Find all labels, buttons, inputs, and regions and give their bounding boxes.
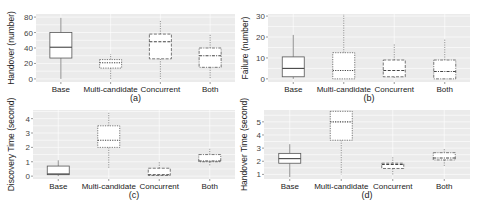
y-axis-label: Handover (number) (6, 11, 16, 85)
x-tick-label: Concurrent (141, 85, 181, 94)
y-tick-label: 0 (29, 75, 34, 84)
y-tick-label: 1 (257, 170, 262, 179)
y-tick-label: 5 (257, 118, 262, 127)
y-tick-label: 2 (26, 143, 31, 152)
panel-caption: (b) (364, 93, 375, 103)
panel-a: 020406080Handover (number)BaseMulti-cand… (6, 11, 235, 103)
boxplot-figure: 020406080Handover (number)BaseMulti-cand… (0, 0, 479, 211)
panel-b: 0102030Failure (number)BaseMulti-candida… (240, 12, 470, 103)
y-tick-label: 10 (256, 54, 265, 63)
x-tick-label: Concurrent (374, 85, 414, 94)
x-tick-label: Both (436, 182, 452, 191)
x-tick-label: Base (281, 182, 300, 191)
x-tick-label: Base (284, 85, 303, 94)
x-tick-label: Base (52, 85, 71, 94)
panel-d: 12345Handover Time (second)BaseMulti-can… (239, 98, 470, 200)
y-tick-label: 1 (26, 158, 31, 167)
y-tick-label: 20 (24, 59, 33, 68)
y-tick-label: 2 (257, 157, 262, 166)
y-axis-label: Discovery Time (second) (6, 98, 16, 192)
y-tick-label: 0 (26, 172, 31, 181)
y-tick-label: 3 (257, 144, 262, 153)
y-tick-label: 60 (24, 29, 33, 38)
x-tick-label: Concurrent (373, 182, 413, 191)
x-tick-label: Both (202, 85, 218, 94)
panel-c: 01234Discovery Time (second)BaseMulti-ca… (6, 98, 235, 200)
panel-caption: (a) (130, 93, 141, 103)
panel-caption: (c) (129, 190, 140, 200)
panel-caption: (d) (362, 190, 373, 200)
y-tick-label: 3 (26, 129, 31, 138)
x-tick-label: Both (202, 182, 218, 191)
x-tick-label: Both (437, 85, 453, 94)
y-tick-label: 80 (24, 13, 33, 22)
y-tick-label: 20 (256, 33, 265, 42)
x-tick-label: Base (49, 182, 68, 191)
y-axis-label: Failure (number) (240, 16, 250, 79)
x-tick-label: Concurrent (139, 182, 179, 191)
y-tick-label: 40 (24, 44, 33, 53)
y-axis-label: Handover Time (second) (239, 98, 249, 191)
y-tick-label: 0 (261, 75, 266, 84)
y-tick-label: 30 (256, 12, 265, 21)
y-tick-label: 4 (257, 131, 262, 140)
y-tick-label: 4 (26, 115, 31, 124)
plot-background (264, 110, 470, 179)
